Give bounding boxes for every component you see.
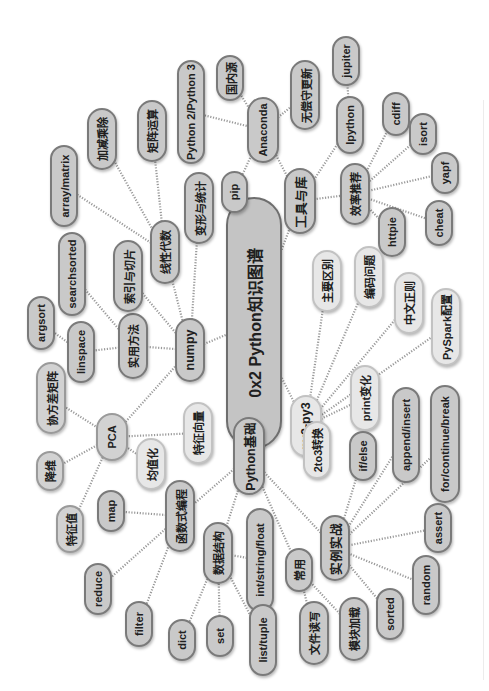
mindmap-node-junzhi[interactable]: 均值化	[136, 438, 166, 490]
mindmap-node-cdiff[interactable]: cdiff	[382, 92, 410, 136]
node-label: httpie	[386, 217, 398, 247]
mindmap-node-guonei[interactable]: 国内源	[216, 55, 244, 101]
mindmap-node-httpie[interactable]: httpie	[378, 207, 406, 257]
node-label: 均值化	[143, 448, 159, 481]
mindmap-node-sorted[interactable]: sorted	[376, 588, 404, 640]
node-label: Python基础	[240, 422, 259, 490]
mindmap-node-bianxing[interactable]: 变形与统计	[184, 172, 214, 244]
node-label: 编码问题	[361, 255, 377, 299]
mindmap-node-zhongwen[interactable]: 中文正则	[394, 272, 424, 334]
node-label: pip	[229, 184, 241, 201]
node-label: reduce	[92, 571, 104, 607]
mindmap-node-jupiter[interactable]: jupiter	[332, 36, 360, 86]
root-node[interactable]: 0x2 Python知识图谱	[226, 197, 282, 449]
node-label: 中文正则	[401, 281, 417, 325]
node-label: 函数式编程	[172, 489, 188, 544]
mindmap-node-hanshu[interactable]: 函数式编程	[165, 480, 195, 552]
mindmap-node-shiyong[interactable]: 实用方法	[118, 313, 148, 379]
mindmap-node-anaconda[interactable]: Anaconda	[247, 97, 279, 163]
mindmap-node-assert[interactable]: assert	[424, 503, 452, 553]
node-label: jupiter	[340, 44, 352, 78]
node-label: 实例实战	[326, 522, 345, 574]
mindmap-node-filter[interactable]: filter	[125, 601, 153, 647]
mindmap-node-bianma[interactable]: 编码问题	[354, 246, 384, 308]
mindmap-node-pca[interactable]: PCA	[96, 413, 128, 461]
node-label: 2to3转换	[309, 428, 325, 473]
page-edge-rule	[483, 100, 484, 680]
mindmap-node-cheat[interactable]: cheat	[425, 200, 453, 246]
node-label: 0x2 Python知识图谱	[242, 248, 266, 397]
node-label: map	[105, 500, 117, 523]
mindmap-node-dict[interactable]: dict	[168, 619, 196, 661]
node-label: 协方差矩阵	[43, 371, 59, 426]
node-label: array/matrix	[58, 155, 70, 218]
mindmap-node-ipython[interactable]: Ipython	[336, 96, 364, 154]
edge-shili-assert	[335, 528, 438, 548]
mindmap-node-arraymatrix[interactable]: array/matrix	[50, 145, 78, 227]
node-label: append/insert	[400, 399, 412, 471]
mindmap-node-shuju[interactable]: 数据结构	[203, 522, 233, 584]
mindmap-node-pybase[interactable]: Python基础	[233, 417, 265, 495]
mindmap-node-intstr[interactable]: int/string/float	[246, 508, 274, 612]
node-label: searchsorted	[66, 239, 78, 308]
mindmap-node-py23ver[interactable]: Python 2/Python 3	[177, 60, 205, 164]
mindmap-node-juzhen[interactable]: 矩阵运算	[137, 100, 167, 162]
mindmap-node-suoyin[interactable]: 索引与切片	[113, 240, 143, 312]
mindmap-node-jiangwei[interactable]: 降维	[36, 451, 64, 491]
mindmap-node-reduce[interactable]: reduce	[84, 563, 112, 615]
node-label: 特征值	[62, 513, 78, 546]
mindmap-node-zhuyao[interactable]: 主要区别	[312, 250, 342, 312]
node-label: sorted	[384, 597, 396, 631]
node-label: 实用方法	[125, 324, 141, 368]
mindmap-node-isort[interactable]: isort	[409, 113, 437, 155]
mindmap-node-xianxing[interactable]: 线性代数	[150, 220, 180, 284]
mindmap-node-random[interactable]: random	[412, 555, 440, 615]
mindmap-node-wuchang[interactable]: 无偿守更新	[290, 60, 320, 130]
mindmap-node-xiefangcha[interactable]: 协方差矩阵	[36, 362, 66, 434]
mindmap-node-tezhengxl[interactable]: 特征向量	[183, 402, 213, 464]
node-label: set	[214, 628, 226, 644]
mindmap-node-tezhengzhi[interactable]: 特征值	[56, 505, 84, 553]
node-label: 线性代数	[157, 230, 173, 274]
node-label: PCA	[106, 425, 118, 448]
mindmap-node-set[interactable]: set	[206, 615, 234, 657]
mindmap-node-2to3[interactable]: 2to3转换	[303, 421, 331, 479]
mindmap-node-append[interactable]: append/insert	[392, 387, 420, 483]
node-label: Ipython	[344, 105, 356, 145]
mindmap-node-linspace[interactable]: linspace	[67, 321, 95, 383]
mindmap-node-map[interactable]: map	[97, 490, 125, 532]
node-label: for/continue/break	[439, 396, 451, 492]
node-label: argsort	[35, 304, 47, 342]
mindmap-node-yapf[interactable]: yapf	[431, 152, 459, 194]
mindmap-node-mokuai[interactable]: 模块加载	[339, 597, 369, 661]
mindmap-node-xiaolv[interactable]: 效率推荐	[340, 163, 370, 225]
mindmap-node-tools[interactable]: 工具与库	[284, 168, 316, 234]
node-label: PySpark配置	[438, 294, 454, 360]
mindmap-node-wenjian[interactable]: 文件读写	[299, 601, 329, 665]
node-label: 特征向量	[190, 411, 206, 455]
mindmap-node-argsort[interactable]: argsort	[27, 296, 55, 350]
mindmap-node-forcont[interactable]: for/continue/break	[430, 385, 460, 503]
node-label: 工具与库	[291, 175, 310, 227]
node-label: 国内源	[222, 62, 238, 95]
mindmap-node-printbh[interactable]: print变化	[350, 365, 380, 431]
node-label: linspace	[75, 330, 87, 374]
mindmap-node-listtuple[interactable]: list/tuple	[249, 604, 277, 676]
node-label: list/tuple	[257, 617, 269, 662]
mindmap-node-jiajian[interactable]: 加减乘除	[87, 108, 117, 170]
mindmap-node-numpy[interactable]: numpy	[175, 318, 205, 382]
node-label: 模块加载	[346, 607, 362, 651]
mindmap-node-changyong[interactable]: 常用	[285, 548, 313, 592]
mindmap-node-ifelse[interactable]: if/else	[349, 431, 377, 481]
node-label: int/string/float	[254, 523, 266, 596]
node-label: if/else	[357, 440, 369, 471]
node-label: 效率推荐	[347, 172, 363, 216]
node-label: cheat	[433, 209, 445, 238]
node-label: filter	[133, 612, 145, 636]
mindmap-node-pip[interactable]: pip	[221, 171, 248, 213]
mindmap-node-pyspark[interactable]: PySpark配置	[431, 288, 461, 366]
node-label: numpy	[183, 330, 197, 371]
mindmap-node-shili[interactable]: 实例实战	[320, 515, 350, 581]
mindmap-node-searchsorted[interactable]: searchsorted	[58, 232, 86, 316]
node-label: cdiff	[390, 102, 402, 125]
